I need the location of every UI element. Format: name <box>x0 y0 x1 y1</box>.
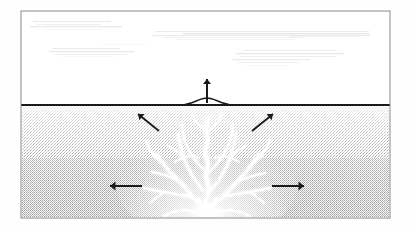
sky-streak-5 <box>183 33 369 34</box>
sky-streak-2 <box>30 26 122 27</box>
sky-streak-14 <box>236 53 344 54</box>
sky-streak-0 <box>33 21 111 22</box>
sky-streak-13 <box>243 50 335 51</box>
ground-region <box>22 105 389 230</box>
sky-streak-18 <box>245 65 289 66</box>
sky-streak-8 <box>175 39 295 40</box>
sky-streak-16 <box>232 59 310 60</box>
sky-streak-9 <box>52 48 120 49</box>
sky-streak-11 <box>55 54 127 55</box>
sky-region <box>22 12 389 105</box>
sky-streak-1 <box>37 24 101 25</box>
sky-streak-15 <box>240 56 336 57</box>
sky-streak-6 <box>152 35 370 36</box>
sky-streak-7 <box>163 37 303 38</box>
figure-root <box>0 0 412 230</box>
sky-streak-19 <box>100 44 148 45</box>
figure-canvas <box>0 0 412 230</box>
sky-streak-20 <box>290 36 360 37</box>
sky-streak-3 <box>45 29 101 30</box>
sky-streak-10 <box>49 51 135 52</box>
sky-streak-4 <box>155 31 369 32</box>
sky-streak-17 <box>238 62 300 63</box>
sky-streak-12 <box>62 56 114 57</box>
